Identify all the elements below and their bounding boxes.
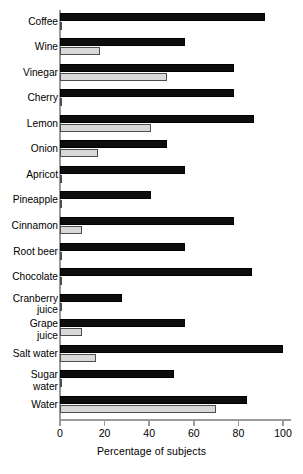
- category-label: Grape juice: [0, 318, 58, 341]
- bar-light: [60, 252, 62, 260]
- bar-light: [60, 47, 100, 55]
- bar-dark: [60, 38, 185, 46]
- category-label: Pineapple: [0, 194, 58, 206]
- category-label: Sugar water: [0, 369, 58, 392]
- category-label: Salt water: [0, 348, 58, 360]
- bar-dark: [60, 115, 254, 123]
- bar-light: [60, 98, 62, 106]
- x-tick-80: [238, 420, 240, 426]
- bar-dark: [60, 268, 252, 276]
- bar-dark: [60, 345, 283, 353]
- bar-dark: [60, 89, 234, 97]
- category-label: Cherry: [0, 92, 58, 104]
- bar-light: [60, 226, 82, 234]
- category-label: Coffee: [0, 16, 58, 28]
- bar-dark: [60, 166, 185, 174]
- x-axis-title: Percentage of subjects: [0, 445, 303, 457]
- category-label: Apricot: [0, 169, 58, 181]
- x-tick-label-60: 60: [188, 427, 200, 439]
- bar-dark: [60, 319, 185, 327]
- category-label: Onion: [0, 143, 58, 155]
- bar-light: [60, 277, 62, 285]
- category-label: Vinegar: [0, 67, 58, 79]
- bar-light: [60, 379, 62, 387]
- bar-dark: [60, 64, 234, 72]
- category-label: Lemon: [0, 118, 58, 130]
- x-tick-label-100: 100: [274, 427, 292, 439]
- category-label: Wine: [0, 41, 58, 53]
- bar-chart: 020406080100 CoffeeWineVinegarCherryLemo…: [0, 0, 303, 474]
- x-tick-40: [148, 420, 150, 426]
- bar-dark: [60, 370, 174, 378]
- x-tick-100: [282, 420, 284, 426]
- x-tick-label-20: 20: [99, 427, 111, 439]
- bar-dark: [60, 294, 122, 302]
- x-axis-line: [59, 419, 291, 421]
- bar-light: [60, 149, 98, 157]
- category-label: Water: [0, 399, 58, 411]
- bar-dark: [60, 191, 151, 199]
- category-label: Chocolate: [0, 271, 58, 283]
- bar-dark: [60, 140, 167, 148]
- bar-light: [60, 405, 216, 413]
- bar-dark: [60, 396, 247, 404]
- x-tick-60: [193, 420, 195, 426]
- x-tick-label-40: 40: [143, 427, 155, 439]
- bar-dark: [60, 217, 234, 225]
- x-tick-label-0: 0: [57, 427, 63, 439]
- bar-light: [60, 354, 96, 362]
- category-label: Root beer: [0, 246, 58, 258]
- bar-light: [60, 73, 167, 81]
- bar-light: [60, 328, 82, 336]
- bar-light: [60, 175, 62, 183]
- bar-light: [60, 124, 151, 132]
- bar-light: [60, 303, 62, 311]
- category-label: Cranberry juice: [0, 293, 58, 316]
- bar-light: [60, 22, 62, 30]
- bar-light: [60, 200, 62, 208]
- x-tick-0: [59, 420, 61, 426]
- category-label: Cinnamon: [0, 220, 58, 232]
- x-tick-20: [104, 420, 106, 426]
- bar-dark: [60, 243, 185, 251]
- bar-dark: [60, 13, 265, 21]
- x-tick-label-80: 80: [233, 427, 245, 439]
